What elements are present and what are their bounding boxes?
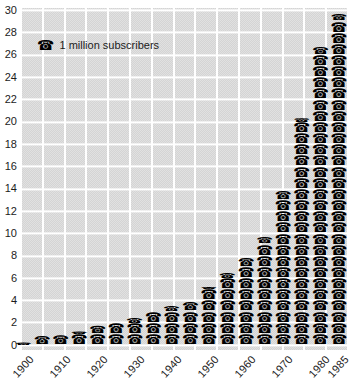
partial-telephone-icon: ☎: [33, 336, 52, 345]
partial-telephone-icon: ☎: [51, 335, 70, 345]
partial-telephone-icon: ☎: [181, 303, 200, 312]
partial-telephone-icon: ☎: [88, 325, 107, 333]
partial-telephone-icon: ☎: [70, 331, 89, 334]
bar-1920: ☎☎: [88, 325, 107, 345]
telephone-icon: ☎: [237, 334, 256, 345]
telephone-icon: ☎: [255, 334, 274, 345]
telephone-icon: ☎: [218, 334, 237, 345]
telephone-icon: ☎: [329, 334, 348, 345]
telephone-icon: ☎: [88, 325, 107, 333]
bars-layer: ☎☎☎☎☎☎☎☎☎☎☎☎☎☎☎☎☎☎☎☎☎☎☎☎☎☎☎☎☎☎☎☎☎☎☎☎☎☎☎☎…: [0, 0, 349, 386]
bar-1900: ☎: [14, 342, 33, 345]
telephone-icon: ☎: [37, 38, 54, 52]
bar-1965: ☎☎☎☎☎☎☎☎☎☎: [255, 238, 274, 345]
bar-1935: ☎☎☎: [144, 312, 163, 345]
partial-telephone-icon: ☎: [292, 117, 311, 121]
telephone-icon: ☎: [274, 191, 293, 200]
telephone-icon: ☎: [125, 334, 144, 345]
bar-1930: ☎☎☎: [125, 317, 144, 345]
telephone-icon: ☎: [200, 334, 219, 345]
telephone-icon: ☎: [33, 336, 52, 345]
telephone-icon: ☎: [162, 334, 181, 345]
telephone-icon: ☎: [274, 334, 293, 345]
partial-telephone-icon: ☎: [255, 238, 274, 245]
bar-1925: ☎☎: [107, 323, 126, 345]
telephone-icon: ☎: [292, 117, 311, 121]
telephone-icon: ☎: [125, 317, 144, 323]
legend-label: 1 million subscribers: [59, 39, 159, 51]
partial-telephone-icon: ☎: [200, 287, 219, 289]
bar-1970: ☎☎☎☎☎☎☎☎☎☎☎☎☎☎: [274, 191, 293, 345]
telephone-icon: ☎: [181, 334, 200, 345]
bar-1945: ☎☎☎☎: [181, 303, 200, 345]
bar-1905: ☎: [33, 336, 52, 345]
bar-1950: ☎☎☎☎☎☎: [200, 287, 219, 345]
telephone-icon: ☎: [70, 334, 89, 345]
telephone-icon: ☎: [218, 272, 237, 278]
bar-1915: ☎☎: [70, 331, 89, 345]
bar-1910: ☎: [51, 335, 70, 345]
telephone-icon: ☎: [311, 47, 330, 55]
partial-telephone-icon: ☎: [311, 47, 330, 55]
bar-1960: ☎☎☎☎☎☎☎☎: [237, 258, 256, 345]
partial-telephone-icon: ☎: [237, 258, 256, 267]
telephone-icon: ☎: [237, 258, 256, 267]
telephone-icon: ☎: [311, 334, 330, 345]
legend: ☎ 1 million subscribers: [37, 38, 159, 52]
telephone-icon: ☎: [200, 287, 219, 289]
partial-telephone-icon: ☎: [274, 191, 293, 200]
telephone-icon: ☎: [107, 334, 126, 345]
bar-1975: ☎☎☎☎☎☎☎☎☎☎☎☎☎☎☎☎☎☎☎☎☎: [292, 117, 311, 345]
bar-1940: ☎☎☎☎: [162, 306, 181, 345]
telephone-icon: ☎: [144, 334, 163, 345]
pictogram-chart: 024681012141618202224262830 ☎☎☎☎☎☎☎☎☎☎☎☎…: [0, 0, 349, 386]
bar-1985: ☎☎☎☎☎☎☎☎☎☎☎☎☎☎☎☎☎☎☎☎☎☎☎☎☎☎☎☎☎☎: [329, 15, 348, 345]
telephone-icon: ☎: [181, 303, 200, 312]
telephone-icon: ☎: [329, 15, 348, 22]
partial-telephone-icon: ☎: [329, 15, 348, 22]
bar-1955: ☎☎☎☎☎☎☎: [218, 272, 237, 345]
partial-telephone-icon: ☎: [162, 306, 181, 312]
bar-1980: ☎☎☎☎☎☎☎☎☎☎☎☎☎☎☎☎☎☎☎☎☎☎☎☎☎☎☎: [311, 47, 330, 345]
partial-telephone-icon: ☎: [218, 272, 237, 278]
telephone-icon: ☎: [162, 306, 181, 312]
telephone-icon: ☎: [51, 335, 70, 345]
telephone-icon: ☎: [14, 342, 33, 345]
telephone-icon: ☎: [292, 334, 311, 345]
telephone-icon: ☎: [70, 331, 89, 334]
telephone-icon: ☎: [255, 238, 274, 245]
partial-telephone-icon: ☎: [14, 342, 33, 345]
partial-telephone-icon: ☎: [125, 317, 144, 323]
